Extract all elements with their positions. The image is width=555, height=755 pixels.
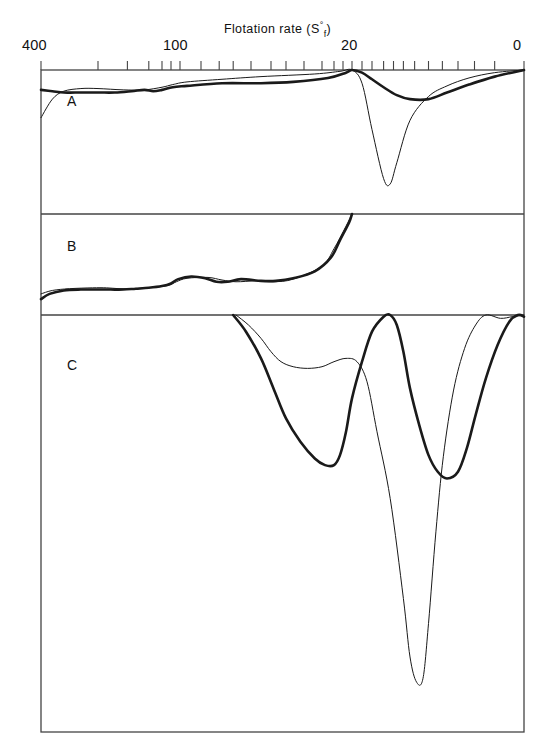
data-curves [41, 69, 524, 685]
x-axis-ticks [41, 61, 524, 70]
thin-curve-A [41, 69, 524, 186]
figure-container: Flotation rate (S°f) 400 100 20 0 A B C [0, 0, 555, 755]
thin-curve-C [236, 315, 524, 685]
thick-curve-C [233, 314, 524, 478]
plot-svg [0, 0, 555, 755]
thin-curve-B [41, 214, 352, 294]
thick-curve-A [41, 70, 524, 100]
thick-curve-B [41, 214, 352, 299]
